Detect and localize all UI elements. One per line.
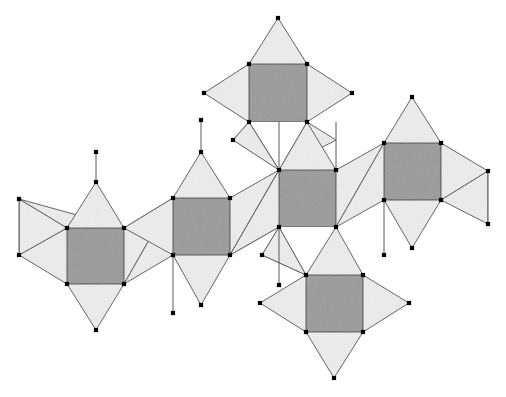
v-r-dn-end — [382, 253, 386, 257]
v-top-apex — [276, 16, 280, 20]
v-left-fan-bot — [17, 253, 21, 257]
v-r-sq-bl — [382, 198, 386, 202]
v-l-sq-br — [122, 282, 126, 286]
square-center — [279, 170, 336, 227]
v-ml-sq-br — [228, 253, 232, 257]
v-top-right-pt — [350, 91, 354, 95]
v-top-sq-bl — [247, 120, 251, 124]
square-top — [249, 64, 307, 122]
v-ml-sq-tr — [228, 196, 232, 200]
v-far-right-top — [486, 169, 490, 173]
v-top-sq-br — [305, 120, 309, 124]
v-left-apex — [94, 180, 98, 184]
v-l-sq-tl — [65, 226, 69, 230]
v-c-sq-tr — [334, 168, 338, 172]
v-r-sq-br — [439, 198, 443, 202]
v-r-sq-tl — [382, 141, 386, 145]
v-c-sq-br — [334, 225, 338, 229]
v-b-down-apex — [332, 376, 336, 380]
v-left-fan-top — [17, 197, 21, 201]
v-b-sq-tr — [361, 273, 365, 277]
v-ml-apex — [199, 150, 203, 154]
v-ml-dn-end — [171, 311, 175, 315]
v-l-sq-bl — [65, 282, 69, 286]
v-left-apex-top — [94, 150, 98, 154]
v-top-left-pt — [202, 91, 206, 95]
v-r-apex — [410, 95, 414, 99]
square-mid-left — [173, 198, 230, 255]
polyhedron-net-figure — [0, 0, 506, 397]
v-c-sq-bl — [277, 225, 281, 229]
net-diagram-canvas — [0, 0, 506, 397]
v-top-sq-tl — [247, 62, 251, 66]
v-ml-down-apex — [199, 303, 203, 307]
v-top-sq-tr — [305, 62, 309, 66]
square-bottom — [306, 275, 363, 332]
v-l-sq-tr — [122, 226, 126, 230]
v-c-sq-tl — [277, 168, 281, 172]
v-ml-sq-bl — [171, 253, 175, 257]
v-l-down-apex — [94, 328, 98, 332]
v-b-sq-tl — [304, 273, 308, 277]
v-r-down-apex — [410, 246, 414, 250]
v-c-dl — [260, 253, 264, 257]
v-b-sq-br — [361, 330, 365, 334]
v-b-right-pt — [407, 301, 411, 305]
v-b-sq-bl — [304, 330, 308, 334]
v-b-left-pt — [258, 301, 262, 305]
v-ml-sq-tl — [171, 196, 175, 200]
v-r-sq-tr — [439, 141, 443, 145]
v-far-right-bot — [486, 222, 490, 226]
v-top-dl — [231, 138, 235, 142]
v-ml-apex-top — [199, 118, 203, 122]
square-right — [384, 143, 441, 200]
v-c-dn-end — [277, 283, 281, 287]
square-left — [67, 228, 124, 284]
